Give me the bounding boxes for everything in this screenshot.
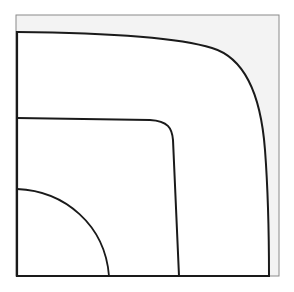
white-region <box>17 32 269 276</box>
contour-diagram <box>0 0 294 292</box>
